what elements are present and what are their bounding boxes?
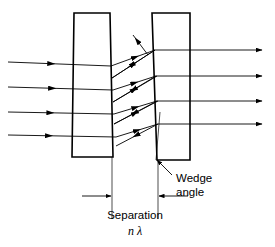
wedge-angle-marker-group: [156, 112, 172, 175]
left-plate: [72, 13, 113, 157]
separation-label: Separation: [107, 209, 163, 221]
outgoing-ray-group: [155, 50, 262, 124]
wedge-angle-label-line1: Wedge: [176, 172, 212, 184]
wedge-angle-label-line2: angle: [176, 186, 204, 198]
incoming-ray: [8, 112, 114, 114]
escaping-ray: [133, 35, 148, 55]
diagram-canvas: Wedge angle Separation n λ: [0, 0, 275, 247]
incoming-ray-group: [8, 62, 116, 137]
separation-value-label: n λ: [128, 224, 142, 238]
escaping-ray-group: [133, 35, 148, 55]
internal-reflection-ray: [114, 101, 158, 124]
internal-reflection-ray: [113, 76, 157, 102]
optics-wedge-diagram: Wedge angle Separation n λ: [0, 0, 275, 247]
incoming-ray: [8, 62, 111, 66]
incoming-ray: [8, 135, 116, 137]
internal-reflection-ray-group: [111, 50, 158, 146]
internal-reflection-ray: [111, 50, 155, 66]
wedge-angle-pointer-arrow: [157, 160, 172, 175]
incoming-ray: [8, 87, 113, 90]
